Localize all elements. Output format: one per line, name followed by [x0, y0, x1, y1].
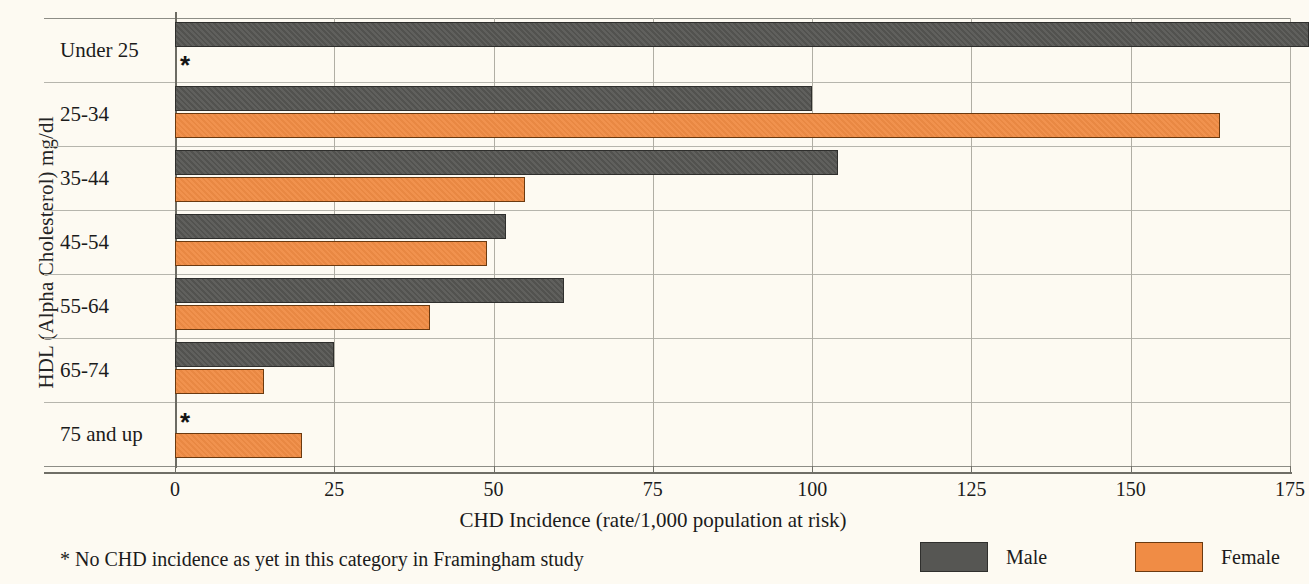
bar-male	[175, 214, 506, 239]
bar-female	[175, 433, 302, 458]
bar-male	[175, 342, 334, 367]
x-axis-title: CHD Incidence (rate/1,000 population at …	[0, 508, 1306, 533]
no-data-asterisk-marker: *	[180, 409, 190, 435]
bar-male	[175, 150, 838, 175]
bar-female	[175, 113, 1220, 138]
footnote: * No CHD incidence as yet in this catego…	[60, 548, 584, 571]
legend-swatch-female	[1135, 542, 1203, 572]
legend-label-male: Male	[1006, 546, 1047, 569]
legend-item-female: Female	[1135, 542, 1280, 572]
bar-female	[175, 177, 525, 202]
bar-female	[175, 369, 264, 394]
bar-male	[175, 86, 812, 111]
bar-male	[175, 278, 564, 303]
bar-female	[175, 241, 487, 266]
bar-female	[175, 305, 430, 330]
bar-male	[175, 22, 1309, 47]
legend-label-female: Female	[1221, 546, 1280, 569]
no-data-asterisk-marker: *	[180, 52, 190, 78]
legend-item-male: Male	[920, 542, 1047, 572]
legend-swatch-male	[920, 542, 988, 572]
